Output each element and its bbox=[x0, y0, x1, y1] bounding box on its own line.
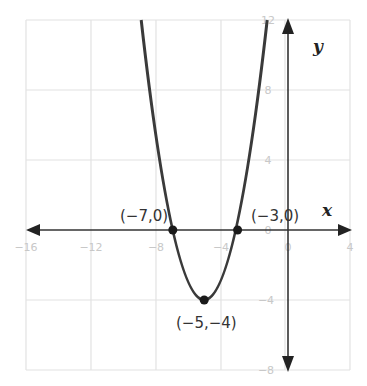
plot-area: −16 −12 −8 −4 0 4 12 8 4 0 −4 −8 y x (−7… bbox=[0, 0, 367, 386]
y-axis-label: y bbox=[312, 36, 324, 56]
axes bbox=[36, 30, 342, 362]
point-label-right: (−3,0) bbox=[251, 207, 299, 225]
x-axis-left-arrow-icon bbox=[26, 224, 40, 236]
point-root-right bbox=[233, 226, 242, 235]
chart: −16 −12 −8 −4 0 4 12 8 4 0 −4 −8 y x (−7… bbox=[0, 0, 367, 386]
y-tick: −8 bbox=[258, 364, 274, 377]
point-label-vertex: (−5,−4) bbox=[176, 314, 237, 332]
x-tick: −16 bbox=[14, 241, 37, 254]
y-tick: −4 bbox=[258, 294, 274, 307]
point-label-left: (−7,0) bbox=[120, 207, 168, 225]
point-vertex bbox=[200, 296, 209, 305]
x-tick-labels: −16 −12 −8 −4 0 4 bbox=[14, 241, 353, 254]
x-tick: −4 bbox=[213, 241, 229, 254]
y-tick: 4 bbox=[265, 154, 272, 167]
x-tick: −8 bbox=[148, 241, 164, 254]
point-root-left bbox=[168, 226, 177, 235]
x-axis-label: x bbox=[321, 200, 333, 220]
y-tick: 8 bbox=[265, 84, 272, 97]
x-tick: −12 bbox=[79, 241, 102, 254]
x-tick: 4 bbox=[347, 241, 354, 254]
